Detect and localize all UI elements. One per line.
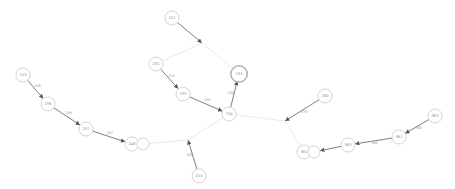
graph-node-highlighted[interactable]: 235	[231, 66, 247, 82]
graph-edge[interactable]	[161, 69, 178, 88]
node-label: 363	[432, 114, 439, 118]
graph-canvas[interactable]: 232233234235236237255279362364 251232233…	[0, 0, 455, 189]
nodes-layer: 2512322332352342532362372462552803613633…	[16, 11, 442, 183]
edge-label: 236	[65, 111, 71, 115]
graph-node[interactable]: 362	[392, 130, 406, 144]
edge-label: 362	[415, 126, 421, 130]
graph-node[interactable]	[308, 146, 320, 158]
node-label: 237	[83, 127, 90, 131]
edge-label: 234	[228, 91, 234, 95]
node-label: 233	[180, 92, 187, 96]
graph-edge[interactable]	[285, 121, 300, 146]
graph-edge[interactable]	[149, 140, 188, 143]
graph-edge[interactable]	[236, 115, 285, 121]
node-label: 234	[226, 112, 234, 116]
edge-label: 235	[34, 84, 40, 88]
node-label: 362	[396, 135, 403, 139]
edges-layer: 232233234235236237255279362364	[28, 22, 429, 169]
node-circle	[308, 146, 320, 158]
node-label: 280	[322, 94, 330, 98]
graph-node[interactable]: 360	[341, 138, 355, 152]
graph-node[interactable]: 251	[165, 11, 179, 25]
graph-edge[interactable]	[177, 22, 201, 42]
node-label: 360	[345, 143, 353, 147]
node-label: 246	[129, 142, 137, 146]
graph-edge[interactable]	[188, 118, 223, 140]
node-circle	[137, 138, 149, 150]
graph-edge[interactable]	[28, 80, 44, 98]
graph-edge[interactable]	[202, 43, 233, 69]
node-label: 361	[301, 150, 308, 154]
node-label: 236	[45, 102, 53, 106]
edge-label: 237	[106, 131, 112, 135]
node-label: 235	[236, 72, 243, 76]
graph-edge[interactable]	[163, 43, 202, 61]
edge-label: 279	[301, 110, 307, 114]
graph-node[interactable]: 233	[176, 87, 190, 101]
graph-edge[interactable]	[320, 146, 341, 150]
graph-node[interactable]	[137, 138, 149, 150]
edge-label: 232	[168, 74, 174, 78]
edge-label: 233	[204, 98, 210, 102]
graph-node[interactable]: 253	[16, 68, 30, 82]
graph-node[interactable]: 232	[149, 57, 163, 71]
graph-node[interactable]: 363	[428, 109, 442, 123]
edge-label: 364	[371, 141, 377, 145]
node-label: 255	[196, 174, 203, 178]
node-label: 253	[20, 73, 27, 77]
graph-node[interactable]: 280	[318, 89, 332, 103]
node-label: 232	[153, 62, 160, 66]
node-label: 251	[169, 16, 176, 20]
graph-node[interactable]: 237	[79, 122, 93, 136]
graph-node[interactable]: 234	[222, 107, 236, 121]
graph-node[interactable]: 236	[41, 97, 55, 111]
edge-label: 255	[186, 153, 192, 157]
graph-node[interactable]: 255	[192, 169, 206, 183]
